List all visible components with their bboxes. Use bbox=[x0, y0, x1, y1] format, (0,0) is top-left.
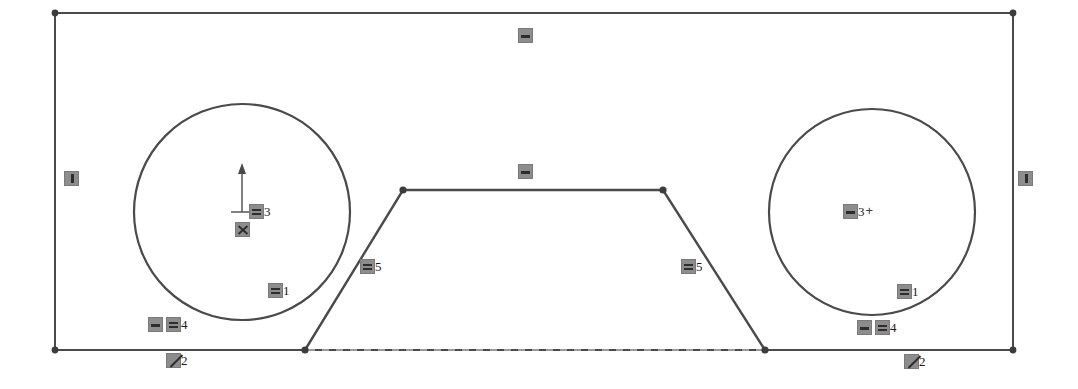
horizontal-constraint-icon bbox=[148, 317, 163, 332]
constraint-left-circle-concentric[interactable] bbox=[235, 222, 250, 237]
constraint-index-label: 3 bbox=[858, 205, 865, 219]
trapezoid-vertex-top-left bbox=[399, 186, 406, 193]
trapezoid-vertex-bottom-right bbox=[761, 346, 768, 353]
equal-constraint-icon bbox=[249, 204, 264, 219]
equal-constraint-icon bbox=[166, 317, 181, 332]
equal-constraint-icon bbox=[268, 283, 283, 298]
rect-corner-top-left bbox=[52, 10, 59, 17]
coincident-constraint-icon bbox=[235, 222, 250, 237]
equal-constraint-icon bbox=[897, 284, 912, 299]
constraint-index-label: 5 bbox=[696, 260, 703, 274]
constraint-left-bottom-tangent[interactable]: 2 bbox=[166, 353, 188, 368]
constraint-index-label: 1 bbox=[283, 284, 290, 298]
constraint-index-label: 5 bbox=[375, 260, 382, 274]
vertex-group bbox=[52, 10, 1017, 354]
constraint-index-label: 1 bbox=[912, 285, 919, 299]
rect-corner-bottom-left bbox=[52, 347, 59, 354]
vertical-constraint-icon bbox=[1018, 171, 1033, 186]
constraint-left-circle-radius-equal[interactable]: 3 bbox=[249, 204, 271, 219]
constraint-right-circle-radius-equal[interactable]: 3 + bbox=[843, 204, 873, 219]
sketch-canvas[interactable]: 3 1 4 2 5 5 3 + 1 4 bbox=[0, 0, 1078, 389]
outer-rectangle[interactable] bbox=[55, 13, 1013, 350]
tangent-constraint-icon bbox=[904, 354, 919, 369]
constraint-right-circle-tangent-bottom[interactable]: 1 bbox=[897, 284, 919, 299]
constraint-right-slant-equal[interactable]: 5 bbox=[681, 259, 703, 274]
constraint-trapezoid-top-horizontal[interactable] bbox=[518, 164, 533, 179]
center-point-marker-icon: + bbox=[866, 204, 874, 217]
horizontal-constraint-icon bbox=[857, 320, 872, 335]
constraint-left-bottom-pair-equal[interactable]: 4 bbox=[148, 317, 188, 332]
trapezoid-vertex-top-right bbox=[659, 186, 666, 193]
constraint-right-bottom-pair-equal[interactable]: 4 bbox=[857, 320, 897, 335]
constraint-right-bottom-tangent[interactable]: 2 bbox=[904, 354, 926, 369]
equal-constraint-icon bbox=[360, 259, 375, 274]
constraint-index-label: 3 bbox=[264, 205, 271, 219]
constraint-right-edge-vertical[interactable] bbox=[1018, 171, 1033, 186]
constraint-left-slant-equal[interactable]: 5 bbox=[360, 259, 382, 274]
horizontal-constraint-icon bbox=[518, 164, 533, 179]
constraint-index-label: 4 bbox=[890, 321, 897, 335]
equal-constraint-icon bbox=[875, 320, 890, 335]
vertical-constraint-icon bbox=[64, 171, 79, 186]
rect-corner-bottom-right bbox=[1010, 347, 1017, 354]
tangent-constraint-icon bbox=[166, 353, 181, 368]
constraint-left-circle-tangent-bottom[interactable]: 1 bbox=[268, 283, 290, 298]
constraint-index-label: 4 bbox=[181, 318, 188, 332]
constraint-left-edge-vertical[interactable] bbox=[64, 171, 79, 186]
constraint-top-edge-horizontal[interactable] bbox=[518, 28, 533, 43]
equal-constraint-icon bbox=[843, 204, 858, 219]
horizontal-constraint-icon bbox=[518, 28, 533, 43]
rect-corner-top-right bbox=[1010, 10, 1017, 17]
trapezoid-vertex-bottom-left bbox=[301, 346, 308, 353]
equal-constraint-icon bbox=[681, 259, 696, 274]
